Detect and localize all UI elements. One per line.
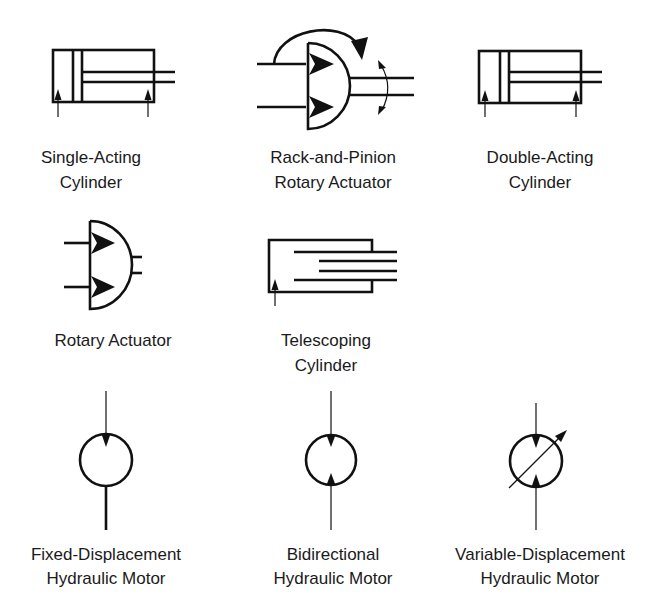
symbol-label: Double-Acting bbox=[487, 148, 594, 167]
flow-arrowhead-icon bbox=[102, 434, 111, 447]
single-acting-cylinder-symbol: Single-Acting Cylinder bbox=[41, 50, 175, 192]
telescoping-cylinder-symbol: Telescoping Cylinder bbox=[269, 240, 397, 375]
symbol-label: Rotary Actuator bbox=[274, 173, 392, 192]
symbol-label: Rack-and-Pinion bbox=[270, 148, 396, 167]
symbol-label: Fixed-Displacement bbox=[31, 545, 181, 564]
fixed-displacement-hydraulic-motor-symbol: Fixed-Displacement Hydraulic Motor bbox=[31, 391, 181, 588]
symbol-label: Hydraulic Motor bbox=[480, 569, 599, 588]
diagram-canvas: Single-Acting Cylinder Rack-and-Pinion R… bbox=[0, 0, 655, 611]
rotary-actuator-symbol: Rotary Actuator bbox=[54, 221, 172, 350]
symbol-label: Variable-Displacement bbox=[455, 545, 625, 564]
flow-arrowhead-icon bbox=[327, 435, 336, 447]
cylinder-barrel bbox=[269, 240, 372, 292]
bidirectional-hydraulic-motor-symbol: Bidirectional Hydraulic Motor bbox=[273, 391, 392, 588]
flow-arrowhead-icon bbox=[309, 96, 334, 118]
symbol-label: Rotary Actuator bbox=[54, 331, 172, 350]
flow-arrowhead-icon bbox=[532, 474, 541, 487]
cylinder-barrel bbox=[479, 51, 581, 103]
variable-displacement-hydraulic-motor-symbol: Variable-Displacement Hydraulic Motor bbox=[455, 403, 625, 588]
symbol-label: Hydraulic Motor bbox=[46, 569, 165, 588]
symbol-label: Cylinder bbox=[295, 356, 358, 375]
bidirectional-rotation-arrow-icon bbox=[378, 60, 388, 115]
flow-arrowhead-icon bbox=[309, 53, 334, 75]
hydraulic-actuator-symbols-figure: Single-Acting Cylinder Rack-and-Pinion R… bbox=[0, 0, 655, 611]
flow-arrowhead-icon bbox=[91, 276, 115, 298]
flow-arrowhead-icon bbox=[532, 435, 541, 448]
symbol-label: Cylinder bbox=[509, 173, 572, 192]
symbol-label: Cylinder bbox=[60, 173, 123, 192]
symbol-label: Bidirectional bbox=[287, 545, 380, 564]
rack-and-pinion-rotary-actuator-symbol: Rack-and-Pinion Rotary Actuator bbox=[257, 30, 414, 192]
symbol-label: Hydraulic Motor bbox=[273, 569, 392, 588]
symbol-label: Telescoping bbox=[281, 331, 371, 350]
actuator-half-dome bbox=[90, 221, 132, 309]
flow-arrowhead-icon bbox=[91, 232, 115, 254]
double-acting-cylinder-symbol: Double-Acting Cylinder bbox=[479, 51, 602, 192]
cylinder-barrel bbox=[53, 50, 154, 102]
flow-arrowhead-icon bbox=[327, 473, 336, 485]
symbol-label: Single-Acting bbox=[41, 148, 141, 167]
